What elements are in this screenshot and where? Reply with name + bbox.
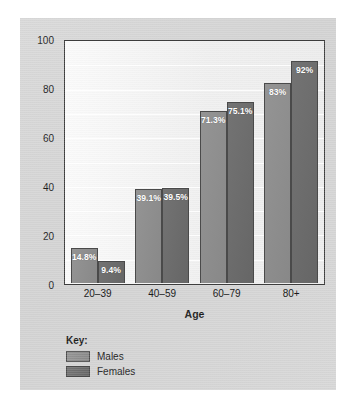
bar-group: 39.1%39.5% [135,41,189,283]
y-axis-tick-labels: 100 80 60 40 20 0 [20,40,60,285]
bar-value-label: 92% [296,65,313,75]
bar-males-1[interactable]: 39.1% [135,189,162,284]
x-axis-title: Age [64,308,325,320]
bar-females-0[interactable]: 9.4% [98,261,125,284]
bar-value-label: 9.4% [101,265,121,275]
x-tick-0: 20–39 [70,288,126,304]
y-tick-80: 80 [43,84,54,95]
legend-swatch-females [66,366,90,377]
bar-groups: 14.8%9.4%39.1%39.5%71.3%75.1%83%92% [65,41,323,283]
legend-label-males: Males [97,351,124,362]
bar-value-label: 39.1% [136,193,160,203]
y-tick-0: 0 [48,280,54,291]
bar-females-1[interactable]: 39.5% [162,188,189,284]
legend: Key: Males Females [66,335,135,381]
x-tick-3: 80+ [263,288,319,304]
y-tick-60: 60 [43,133,54,144]
y-tick-100: 100 [37,35,54,46]
x-tick-2: 60–79 [199,288,255,304]
legend-swatch-males [66,351,90,362]
bar-males-0[interactable]: 14.8% [71,248,98,284]
bar-males-3[interactable]: 83% [264,83,291,284]
bar-males-2[interactable]: 71.3% [200,111,227,284]
bar-value-label: 14.8% [72,252,96,262]
bar-females-3[interactable]: 92% [291,61,318,284]
bar-group: 71.3%75.1% [200,41,254,283]
chart-page: Percent of population with CVD 100 80 60… [0,0,355,406]
bar-value-label: 83% [269,87,286,97]
legend-item-females[interactable]: Females [66,366,135,377]
x-tick-1: 40–59 [134,288,190,304]
x-axis-tick-labels: 20–3940–5960–7980+ [65,288,323,304]
legend-label-females: Females [97,366,135,377]
legend-item-males[interactable]: Males [66,351,135,362]
bar-value-label: 75.1% [228,106,252,116]
chart-card: Percent of population with CVD 100 80 60… [20,18,336,390]
legend-title: Key: [66,335,135,346]
bar-females-2[interactable]: 75.1% [227,102,254,284]
y-tick-40: 40 [43,182,54,193]
bar-value-label: 71.3% [201,115,225,125]
bar-group: 83%92% [264,41,318,283]
bar-group: 14.8%9.4% [71,41,125,283]
bar-value-label: 39.5% [163,192,187,202]
y-tick-20: 20 [43,231,54,242]
